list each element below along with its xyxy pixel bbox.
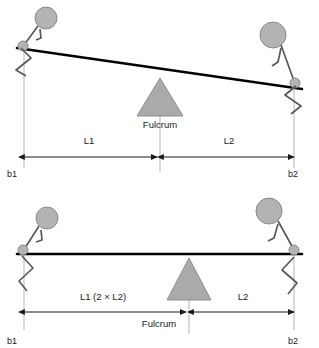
span-label-L1-unbalanced: L1 bbox=[84, 135, 95, 146]
lever-diagram-figure: Fulcrum L1 L2 b1 b2 bbox=[0, 0, 319, 348]
arm bbox=[268, 224, 278, 241]
fulcrum-triangle-balanced bbox=[167, 258, 211, 300]
legs bbox=[282, 257, 297, 294]
stick-figure-right-balanced bbox=[256, 198, 299, 294]
span-label-L1-balanced: L1 (2 × L2) bbox=[80, 291, 126, 302]
head-icon bbox=[35, 7, 57, 29]
stick-figure-right-unbalanced bbox=[260, 22, 301, 114]
panel-unbalanced-lever: Fulcrum L1 L2 b1 b2 bbox=[7, 7, 302, 179]
legs bbox=[19, 256, 33, 291]
arm bbox=[36, 29, 41, 40]
span-label-L2-unbalanced: L2 bbox=[224, 135, 235, 146]
torso bbox=[25, 226, 39, 248]
marker-label-b1-unbalanced: b1 bbox=[7, 169, 17, 179]
fulcrum-label-balanced: Fulcrum bbox=[142, 318, 176, 329]
torso bbox=[278, 221, 293, 248]
fulcrum-label-unbalanced: Fulcrum bbox=[143, 119, 177, 130]
fulcrum-triangle-unbalanced bbox=[137, 78, 183, 116]
head-icon bbox=[260, 22, 286, 48]
torso bbox=[281, 45, 294, 81]
head-icon bbox=[256, 198, 282, 224]
legs bbox=[285, 86, 301, 114]
marker-label-b2-balanced: b2 bbox=[288, 336, 298, 346]
seat-ball bbox=[18, 245, 28, 255]
seat-ball bbox=[289, 245, 299, 255]
arm bbox=[272, 48, 281, 66]
diagram-canvas: Fulcrum L1 L2 b1 b2 bbox=[0, 0, 319, 348]
stick-figure-left-unbalanced bbox=[16, 7, 57, 76]
span-label-L2-balanced: L2 bbox=[238, 291, 249, 302]
marker-label-b2-unbalanced: b2 bbox=[288, 169, 298, 179]
arm bbox=[36, 230, 42, 242]
panel-balanced-lever: L1 (2 × L2) L2 Fulcrum b1 b2 bbox=[7, 198, 302, 346]
head-icon bbox=[36, 207, 58, 229]
marker-label-b1-balanced: b1 bbox=[7, 336, 17, 346]
